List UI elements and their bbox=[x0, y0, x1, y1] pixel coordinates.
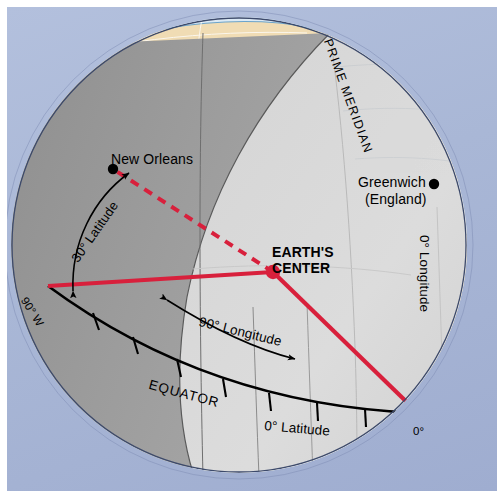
globe-plate: New Orleans Greenwich (England) PRIME ME… bbox=[7, 7, 497, 491]
outer-meridian-line bbox=[477, 227, 485, 407]
figure-canvas: New Orleans Greenwich (England) PRIME ME… bbox=[0, 0, 504, 498]
greenwich-label-line2: (England) bbox=[365, 192, 427, 208]
tick-label-0: 0° bbox=[413, 425, 424, 438]
earths-center-label-line1: EARTH'S bbox=[272, 245, 334, 261]
greenwich-label-line1: Greenwich bbox=[358, 175, 426, 191]
longitude-0-label: 0° Longitude bbox=[417, 235, 432, 312]
earths-center-label-line2: CENTER bbox=[272, 261, 330, 277]
greenwich-marker bbox=[429, 179, 439, 189]
new-orleans-label: New Orleans bbox=[111, 152, 193, 168]
